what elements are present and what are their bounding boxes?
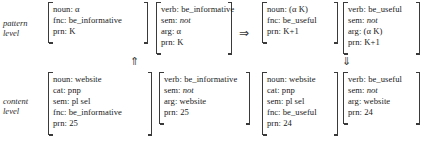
feature-row: fnc: be_useful xyxy=(267,15,333,26)
feature-matrix-content-noun-source: noun: website cat: pnp sem: pl sel fnc: … xyxy=(48,72,152,135)
feature-row: prn: 25 xyxy=(164,107,245,118)
content-level-label-line1: content xyxy=(3,96,28,106)
feature-attribute: verb: xyxy=(164,74,182,84)
bracket-cap xyxy=(228,2,232,3)
bracket-cap xyxy=(416,2,420,3)
bracket-cap xyxy=(263,72,267,73)
feature-attribute: verb: xyxy=(348,74,366,84)
bracket-cap xyxy=(160,72,164,73)
feature-value: K xyxy=(69,26,75,36)
feature-value: website xyxy=(364,96,391,106)
feature-matrix-pattern-verb-target: verb: be_useful sem: not arg: (α K) prn:… xyxy=(343,2,420,54)
bracket-cap xyxy=(49,2,53,3)
feature-value: pl sel xyxy=(286,96,305,106)
feature-matrix-content-verb-source: verb: be_informative sem: not arg: websi… xyxy=(159,72,250,124)
bracket-cap xyxy=(416,53,420,54)
feature-attribute: arg: xyxy=(161,26,174,36)
bracket-cap xyxy=(160,123,164,124)
feature-value: be_informative xyxy=(69,15,122,25)
feature-value: not xyxy=(367,85,378,95)
feature-attribute: prn: xyxy=(267,118,281,128)
feature-attribute: fnc: xyxy=(53,107,67,117)
bracket-cap xyxy=(157,53,161,54)
feature-value: (α K) xyxy=(364,26,383,36)
feature-attribute: noun: xyxy=(53,74,73,84)
feature-row: fnc: be_informative xyxy=(53,107,147,118)
feature-row: verb: be_informative xyxy=(164,74,245,85)
derivation-arrow-right-icon: ⇒ xyxy=(239,28,249,39)
feature-attribute: sem: xyxy=(164,85,180,95)
feature-row: prn: K+1 xyxy=(348,37,415,48)
bracket-cap xyxy=(246,72,250,73)
feature-row: arg: α xyxy=(161,26,227,37)
feature-value: be_informative xyxy=(184,74,237,84)
feature-value: K xyxy=(177,37,183,47)
bracket-cap xyxy=(334,134,338,135)
bracket-cap xyxy=(148,72,152,73)
bracket-cap xyxy=(144,2,148,3)
feature-row: sem: not xyxy=(348,15,415,26)
feature-value: K+1 xyxy=(364,37,380,47)
feature-attribute: arg: xyxy=(164,96,177,106)
content-level-label-line2: level xyxy=(3,106,28,116)
feature-value: website xyxy=(180,96,207,106)
abstraction-arrow-up-icon: ⇑ xyxy=(130,56,139,67)
feature-attribute: noun: xyxy=(267,4,287,14)
feature-matrix-pattern-noun-target: noun: (α K) fnc: be_useful prn: K+1 xyxy=(262,2,338,43)
feature-attribute: prn: xyxy=(53,26,67,36)
feature-value: α xyxy=(75,4,80,14)
feature-attribute: noun: xyxy=(53,4,73,14)
feature-attribute: prn: xyxy=(348,37,362,47)
feature-row: cat: pnp xyxy=(53,85,147,96)
feature-value: K+1 xyxy=(283,26,299,36)
feature-attribute: sem: xyxy=(348,85,364,95)
feature-attribute: fnc: xyxy=(267,107,281,117)
pattern-level-label: pattern level xyxy=(3,18,28,38)
bracket-cap xyxy=(148,134,152,135)
pattern-level-label-line2: level xyxy=(3,28,28,38)
bracket-cap xyxy=(416,72,420,73)
feature-value: 24 xyxy=(283,118,292,128)
feature-attribute: arg: xyxy=(348,26,361,36)
feature-row: verb: be_informative xyxy=(161,4,227,15)
feature-value: pnp xyxy=(282,85,295,95)
bracket-cap xyxy=(157,2,161,3)
feature-attribute: verb: xyxy=(161,4,179,14)
feature-attribute: noun: xyxy=(267,74,287,84)
feature-row: prn: 25 xyxy=(53,118,147,129)
feature-value: (α K) xyxy=(289,4,308,14)
bracket-cap xyxy=(144,42,148,43)
feature-row: noun: website xyxy=(53,74,147,85)
bracket-cap xyxy=(344,72,348,73)
feature-matrix-content-verb-target: verb: be_useful sem: not arg: website pr… xyxy=(343,72,420,124)
feature-row: verb: be_useful xyxy=(348,4,415,15)
bracket-cap xyxy=(49,72,53,73)
feature-attribute: sem: xyxy=(348,15,364,25)
feature-value: α xyxy=(177,26,182,36)
feature-row: arg: website xyxy=(164,96,245,107)
bracket-cap xyxy=(263,134,267,135)
feature-row: noun: website xyxy=(267,74,333,85)
feature-value: pl sel xyxy=(72,96,91,106)
feature-value: be_informative xyxy=(181,4,234,14)
feature-attribute: prn: xyxy=(161,37,175,47)
feature-matrix-content-noun-target: noun: website cat: pnp sem: pl sel fnc: … xyxy=(262,72,338,135)
feature-value: 25 xyxy=(180,107,189,117)
feature-attribute: sem: xyxy=(161,15,177,25)
bracket-cap xyxy=(228,53,232,54)
bracket-cap xyxy=(334,72,338,73)
bracket-cap xyxy=(246,123,250,124)
bracket-cap xyxy=(334,2,338,3)
feature-row: fnc: be_useful xyxy=(267,107,333,118)
feature-attribute: prn: xyxy=(53,118,67,128)
feature-row: sem: not xyxy=(348,85,415,96)
content-level-label: content level xyxy=(3,96,28,116)
feature-value: be_useful xyxy=(368,74,402,84)
feature-value: website xyxy=(289,74,316,84)
feature-row: noun: (α K) xyxy=(267,4,333,15)
feature-attribute: cat: xyxy=(53,85,66,95)
feature-value: be_informative xyxy=(69,107,122,117)
bracket-cap xyxy=(334,42,338,43)
feature-value: 24 xyxy=(364,107,373,117)
feature-attribute: prn: xyxy=(164,107,178,117)
